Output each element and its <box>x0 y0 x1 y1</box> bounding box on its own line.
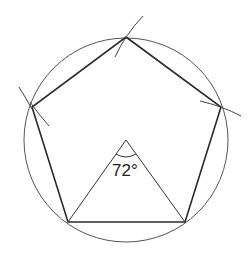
angle-label: 72° <box>112 161 138 180</box>
construction-arc-top <box>115 16 143 57</box>
construction-arc-left-lower <box>30 102 49 126</box>
angle-arc <box>116 154 136 157</box>
pentagon <box>32 37 221 222</box>
construction-arc-left-upper <box>19 87 32 109</box>
triangle-side-left <box>68 140 126 222</box>
pentagon-diagram: 72° <box>0 0 249 259</box>
triangle-side-right <box>126 140 185 222</box>
